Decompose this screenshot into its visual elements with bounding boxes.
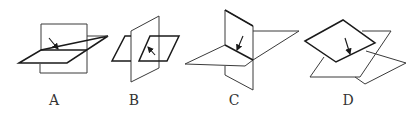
figure-d-lower-plane-back (355, 51, 406, 84)
figure-d-arrow-icon (345, 38, 350, 54)
figure-d-upper-plane (305, 20, 375, 62)
figure-d (305, 20, 406, 84)
figure-c-horizontal-plane (185, 31, 299, 66)
figure-c (185, 10, 299, 90)
figure-b-arrow-icon (148, 47, 155, 55)
figure-c-arrow-icon (237, 36, 243, 50)
figure-b-horizontal-plane-left (112, 36, 131, 61)
figure-b-label: B (124, 92, 144, 108)
figure-c-intersection-line (225, 45, 253, 60)
figure-c-vertical-plane-bottom (225, 60, 253, 90)
figure-a-label: A (44, 92, 64, 108)
figure-d-label: D (338, 92, 358, 108)
figure-c-label: C (224, 92, 244, 108)
figure-a (19, 24, 108, 73)
figure-b (112, 16, 179, 82)
figure-d-lower-plane (310, 31, 391, 77)
figure-c-vertical-plane-edges (225, 10, 253, 26)
